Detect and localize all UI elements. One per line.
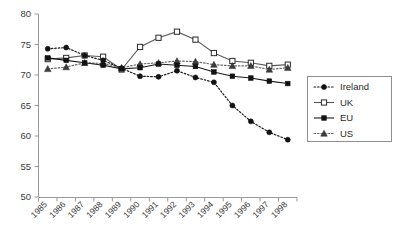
data-point-marker [156, 74, 161, 79]
data-point-marker [174, 68, 179, 73]
data-point-marker [321, 100, 326, 105]
chart-series-layer [44, 29, 291, 142]
y-tick-label: 75 [20, 39, 31, 50]
y-tick-label: 60 [20, 130, 31, 141]
data-point-marker [193, 37, 198, 42]
x-tick-label: 1994 [195, 199, 216, 220]
data-point-marker [82, 53, 87, 58]
x-tick-label: 1990 [121, 199, 142, 220]
x-tick-label: 1989 [103, 199, 124, 220]
data-point-marker [101, 63, 106, 68]
x-tick-label: 1995 [213, 199, 234, 220]
data-point-marker [285, 81, 290, 86]
x-axis-tick-labels: 1985198619871988198919901991199219931994… [29, 199, 290, 220]
data-point-marker [44, 66, 51, 72]
legend-label: Ireland [340, 81, 369, 92]
y-tick-label: 50 [20, 191, 31, 202]
data-point-marker [322, 85, 327, 90]
data-point-marker [64, 58, 69, 63]
x-tick-label: 1986 [47, 199, 68, 220]
data-point-marker [174, 29, 179, 34]
chart-container: 50556065707580 1985198619871988198919901… [0, 0, 399, 245]
x-tick-label: 1985 [29, 199, 50, 220]
data-point-marker [211, 80, 216, 85]
data-point-marker [267, 79, 272, 84]
y-axis-ticks [35, 14, 39, 197]
data-point-marker [267, 130, 272, 135]
data-point-marker [285, 137, 290, 142]
data-point-marker [45, 46, 50, 51]
data-point-marker [138, 74, 143, 79]
y-tick-label: 80 [20, 8, 31, 19]
x-tick-label: 1993 [176, 199, 197, 220]
x-tick-label: 1991 [139, 199, 160, 220]
y-tick-label: 70 [20, 69, 31, 80]
data-point-marker [193, 75, 198, 80]
legend-label: EU [340, 112, 353, 123]
legend-label: US [340, 128, 353, 139]
x-tick-label: 1996 [232, 199, 253, 220]
chart-legend: IrelandUKEUUS [308, 77, 392, 142]
x-tick-label: 1987 [66, 199, 87, 220]
line-chart: 50556065707580 1985198619871988198919901… [0, 0, 399, 245]
x-tick-label: 1997 [250, 199, 271, 220]
data-point-marker [138, 65, 143, 70]
data-point-marker [211, 50, 216, 55]
data-point-marker [101, 58, 106, 63]
data-point-marker [137, 44, 142, 49]
x-tick-label: 1988 [84, 199, 105, 220]
y-tick-label: 65 [20, 100, 31, 111]
legend-label: UK [340, 97, 354, 108]
data-point-marker [64, 45, 69, 50]
data-point-marker [119, 66, 124, 71]
x-tick-label: 1992 [158, 199, 179, 220]
data-point-marker [45, 56, 50, 61]
data-point-marker [156, 62, 161, 67]
y-axis: 50556065707580 [20, 8, 38, 202]
data-point-marker [322, 116, 327, 121]
data-point-marker [230, 74, 235, 79]
data-point-marker [248, 119, 253, 124]
data-point-marker [193, 64, 198, 69]
data-point-marker [175, 63, 180, 68]
series-ireland [45, 45, 290, 142]
data-point-marker [156, 35, 161, 40]
data-point-marker [249, 76, 254, 81]
x-axis: 1985198619871988198919901991199219931994… [29, 198, 297, 220]
data-point-marker [82, 61, 87, 66]
y-tick-label: 55 [20, 161, 31, 172]
x-tick-label: 1998 [269, 199, 290, 220]
y-axis-tick-labels: 50556065707580 [20, 8, 31, 202]
data-point-marker [212, 70, 217, 75]
data-point-marker [230, 103, 235, 108]
